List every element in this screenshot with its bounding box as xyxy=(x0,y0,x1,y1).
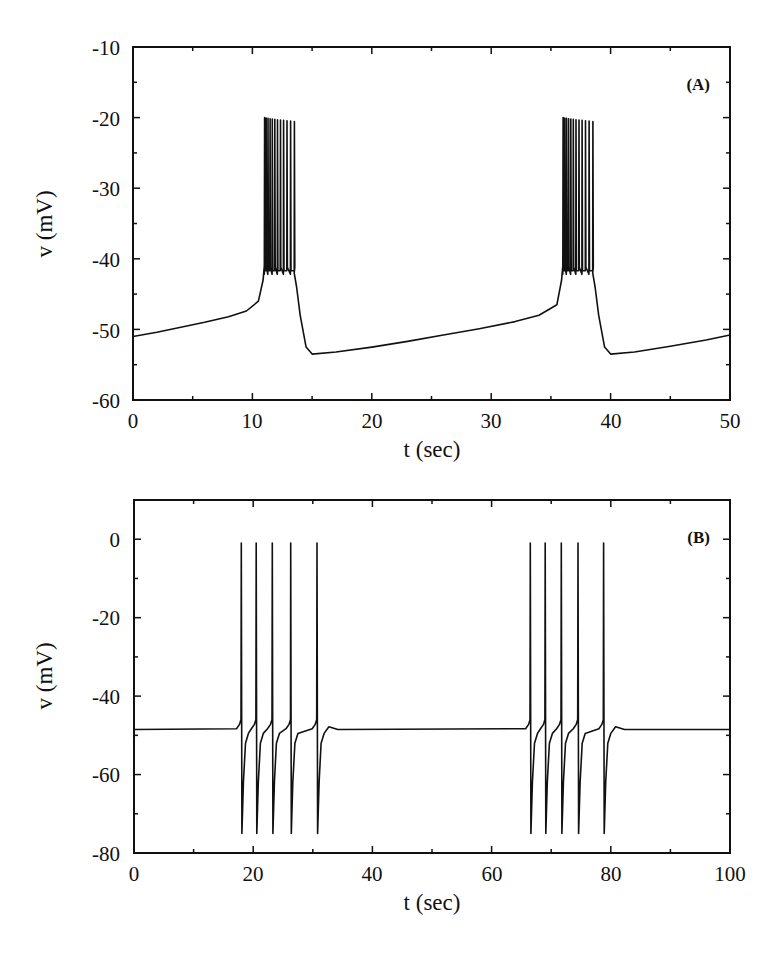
panel-b-y-tick-labels: 0 -20 -40 -60 -80 xyxy=(92,528,120,866)
x-tick-label: 40 xyxy=(362,862,383,886)
x-tick-label: 50 xyxy=(720,409,741,433)
figure: -10 -20 -30 -40 -50 -60 0 10 20 30 40 50… xyxy=(0,0,784,960)
panel-a-x-tick-labels: 0 10 20 30 40 50 xyxy=(128,409,741,433)
x-tick-label: 10 xyxy=(242,409,263,433)
x-tick-label: 80 xyxy=(601,862,622,886)
panel-b-voltage-trace xyxy=(134,543,730,833)
y-tick-label: -40 xyxy=(92,248,120,272)
x-tick-label: 20 xyxy=(362,409,383,433)
x-tick-label: 100 xyxy=(714,862,746,886)
x-tick-label: 0 xyxy=(128,409,139,433)
y-tick-label: -30 xyxy=(92,177,120,201)
panel-b-x-axis-label: t (sec) xyxy=(404,890,461,915)
panel-a-y-axis-label: v (mV) xyxy=(32,190,57,257)
x-tick-label: 0 xyxy=(129,862,140,886)
x-tick-label: 60 xyxy=(482,862,503,886)
panel-b-tag: (B) xyxy=(687,528,710,547)
panel-a-y-tick-labels: -10 -20 -30 -40 -50 -60 xyxy=(92,36,120,413)
panel-b-y-axis-label: v (mV) xyxy=(32,642,57,709)
y-tick-label: -40 xyxy=(92,685,120,709)
panel-a-chart: -10 -20 -30 -40 -50 -60 0 10 20 30 40 50… xyxy=(32,36,741,462)
y-tick-label: -80 xyxy=(92,842,120,866)
panel-a-frame xyxy=(133,47,730,400)
panel-a-voltage-trace xyxy=(133,118,730,355)
panel-b-x-tick-labels: 0 20 40 60 80 100 xyxy=(129,862,746,886)
panel-b-chart: 0 -20 -40 -60 -80 0 20 40 60 80 100 t (s… xyxy=(32,500,746,915)
panel-b-frame xyxy=(134,500,730,853)
y-tick-label: -10 xyxy=(92,36,120,60)
y-tick-label: -60 xyxy=(92,389,120,413)
x-tick-label: 30 xyxy=(481,409,502,433)
panel-a-ticks xyxy=(133,47,730,400)
y-tick-label: -20 xyxy=(92,107,120,131)
panel-a-tag: (A) xyxy=(686,75,710,94)
y-tick-label: -20 xyxy=(92,606,120,630)
x-tick-label: 20 xyxy=(243,862,264,886)
x-tick-label: 40 xyxy=(601,409,622,433)
y-tick-label: 0 xyxy=(110,528,121,552)
panel-a-x-axis-label: t (sec) xyxy=(404,437,461,462)
y-tick-label: -50 xyxy=(92,319,120,343)
y-tick-label: -60 xyxy=(92,763,120,787)
panel-b-ticks xyxy=(134,500,730,853)
